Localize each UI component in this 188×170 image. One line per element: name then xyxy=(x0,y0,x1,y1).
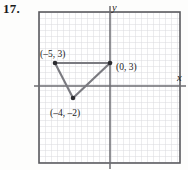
vertex-dot-v2 xyxy=(108,61,113,66)
vertex-dot-v3 xyxy=(71,96,76,101)
vertex-label-v3: (–4, –2) xyxy=(50,108,80,118)
x-axis-label: x xyxy=(177,72,182,83)
coordinate-plane-figure xyxy=(0,0,188,170)
vertex-label-v1: (–5, 3) xyxy=(40,49,65,59)
figure-panel: 17. (–5, 3) (0, 3) (–4, –2) y xyxy=(0,0,188,170)
vertex-label-v2: (0, 3) xyxy=(116,62,137,72)
y-axis-label: y xyxy=(112,2,117,13)
vertex-dot-v1 xyxy=(53,61,58,66)
